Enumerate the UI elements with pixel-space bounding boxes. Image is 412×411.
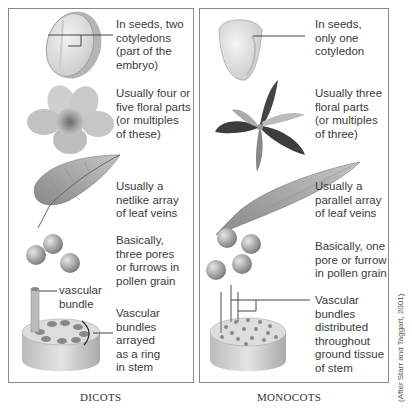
- monocot-seed-icon: [219, 20, 305, 80]
- monocots-caption: MONOCOTS: [257, 391, 321, 403]
- dicot-seed-icon: [39, 5, 113, 85]
- dicot-flower-label: Usually four or five floral parts (or mu…: [116, 87, 191, 141]
- monocot-flower-label: Usually three floral parts (or multiples…: [315, 87, 382, 141]
- dicot-leaf-icon: [34, 155, 120, 228]
- monocot-stem-icon: [210, 285, 310, 371]
- dicots-caption: DICOTS: [80, 391, 122, 403]
- dicot-flower-icon: [27, 81, 114, 154]
- monocot-stem-label: Vascular bundles distributed throughout …: [315, 294, 384, 375]
- monocot-pollen-label: Basically, one pore or furrow in pollen …: [315, 240, 387, 281]
- dicot-pollen-label: Basically, three pores or furrows in pol…: [116, 234, 179, 288]
- monocot-pollen-icon: [206, 228, 261, 280]
- source-credit: (After Starr and Taggart, 2001): [396, 294, 405, 402]
- dicot-bundle-label: vascular bundle: [59, 284, 102, 311]
- dicot-stem-label: Vascular bundles arrayed as a ring in st…: [116, 307, 160, 375]
- monocot-flower-icon: [215, 80, 305, 172]
- monocot-leaf-label: Usually a parallel array of leaf veins: [315, 180, 381, 221]
- dicot-pollen-icon: [26, 234, 80, 273]
- dicot-seed-label: In seeds, two cotyledons (part of the em…: [116, 18, 184, 72]
- dicot-leaf-label: Usually a netlike array of leaf veins: [116, 180, 179, 221]
- monocot-seed-label: In seeds, only one cotyledon: [315, 18, 364, 59]
